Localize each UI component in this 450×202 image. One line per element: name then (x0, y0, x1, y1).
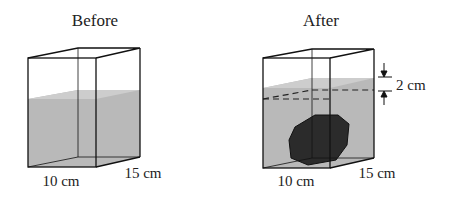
after-figure: After 2 cm 10 cm 15 cm (263, 11, 426, 189)
rise-label: 2 cm (396, 77, 426, 93)
before-depth-label: 15 cm (124, 165, 161, 181)
before-figure: Before 10 cm 15 cm (28, 11, 162, 189)
before-water (28, 90, 140, 167)
diagram-canvas: Before 10 cm 15 cm After (0, 0, 450, 202)
after-depth-label: 15 cm (358, 165, 395, 181)
rise-dimension (378, 63, 392, 105)
after-title: After (303, 11, 339, 30)
after-width-label: 10 cm (277, 173, 314, 189)
before-width-label: 10 cm (42, 173, 79, 189)
before-title: Before (72, 11, 118, 30)
